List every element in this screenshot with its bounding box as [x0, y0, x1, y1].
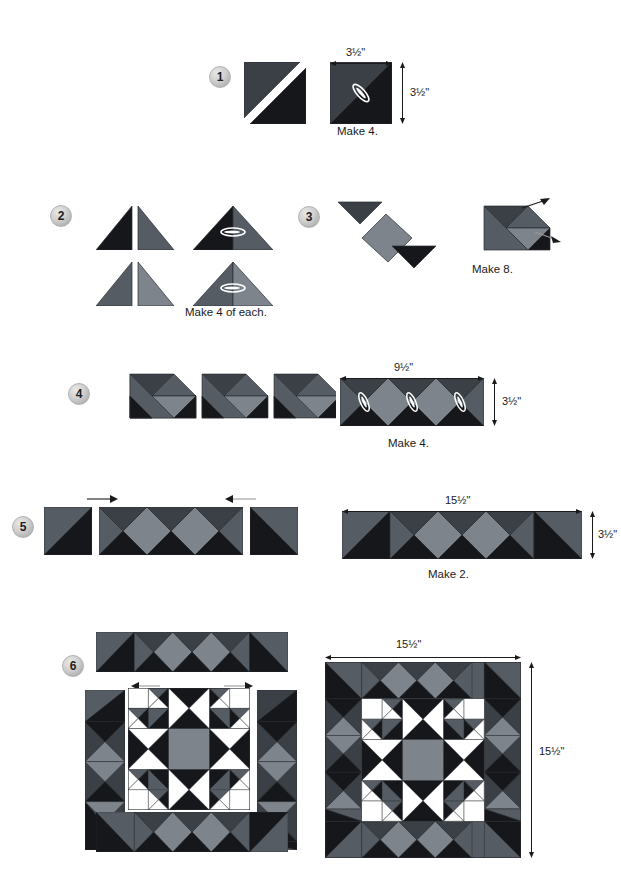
- step-badge-6: 6: [62, 655, 84, 677]
- step3-press-arrow-top-icon: [520, 196, 554, 212]
- step1-width-arrow-icon: [330, 59, 392, 68]
- step5-press-arrow-right-icon: [222, 492, 258, 504]
- step6-bottom-border-strip: [96, 812, 288, 852]
- step4-width-label: 9½": [394, 361, 413, 373]
- step5-height-arrow-icon: [588, 511, 597, 559]
- step5-press-arrow-left-icon: [85, 492, 121, 504]
- step-number-6: 6: [70, 659, 77, 673]
- step6-width-label: 15½": [396, 638, 421, 650]
- step6-height-arrow-icon: [527, 662, 536, 858]
- step3-caption: Make 8.: [472, 263, 513, 275]
- step1-sewn-square: [330, 62, 392, 124]
- step5-height-label: 3½": [598, 528, 617, 540]
- step-number-5: 5: [20, 520, 27, 534]
- step-number-4: 4: [76, 387, 83, 401]
- step5-caption: Make 2.: [428, 568, 469, 580]
- step5-center-strip: [99, 507, 243, 555]
- step-badge-4: 4: [68, 383, 90, 405]
- step5-left-hst: [44, 507, 92, 555]
- step3-exploded-pieces: [330, 196, 448, 274]
- step1-caption: Make 4.: [337, 125, 378, 137]
- step-badge-5: 5: [12, 516, 34, 538]
- step-badge-1: 1: [209, 66, 231, 88]
- step5-sewn-strip: [342, 511, 582, 559]
- step-number-2: 2: [58, 209, 65, 223]
- step5-right-hst: [250, 507, 298, 555]
- step5-width-label: 15½": [445, 494, 470, 506]
- step6-final-block: [325, 662, 521, 858]
- step6-top-border-strip: [96, 632, 288, 672]
- step5-width-arrow-icon: [342, 507, 582, 516]
- step-number-3: 3: [306, 210, 313, 224]
- step4-height-label: 3½": [502, 395, 521, 407]
- step1-height-arrow-icon: [398, 62, 407, 124]
- step4-width-arrow-icon: [340, 374, 484, 383]
- step1-width-label: 3½": [346, 46, 365, 58]
- step6-width-arrow-icon: [325, 653, 521, 662]
- step4-caption: Make 4.: [388, 437, 429, 449]
- step6-height-label: 15½": [539, 745, 564, 757]
- step4-sewn-strip: [340, 378, 484, 426]
- step3-press-arrow-bottom-icon: [533, 228, 567, 246]
- step2-rowA-sewn-triangle: [193, 206, 273, 250]
- step-badge-2: 2: [50, 205, 72, 227]
- step4-height-arrow-icon: [490, 378, 499, 426]
- step2-rowB-sewn-triangle: [193, 262, 273, 306]
- step2-caption: Make 4 of each.: [185, 306, 267, 318]
- step4-exploded-row: [122, 370, 336, 432]
- step-number-1: 1: [217, 70, 224, 84]
- step1-height-label: 3½": [410, 86, 429, 98]
- step1-hst-pieces: [244, 62, 306, 124]
- step2-rowA-pieces: [96, 206, 176, 250]
- step-badge-3: 3: [298, 206, 320, 228]
- step6-center-star-block: [128, 688, 250, 810]
- step2-rowB-pieces: [96, 262, 176, 306]
